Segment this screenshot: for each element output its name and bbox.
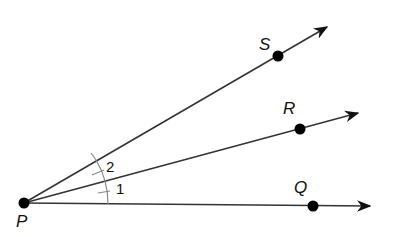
ray-pr	[24, 113, 358, 203]
point-p	[19, 198, 30, 209]
angle-arc-upper	[91, 153, 96, 160]
label-r: R	[283, 99, 295, 118]
point-r	[295, 124, 306, 135]
label-p: P	[16, 212, 28, 231]
label-s: S	[259, 35, 271, 54]
angle-diagram: P S R Q 2 1	[0, 0, 393, 237]
angle-label-1: 1	[116, 180, 124, 197]
angle-1-tick	[98, 191, 110, 193]
point-s	[273, 51, 284, 62]
label-q: Q	[294, 178, 307, 197]
point-q	[308, 201, 319, 212]
angle-label-2: 2	[106, 158, 114, 175]
